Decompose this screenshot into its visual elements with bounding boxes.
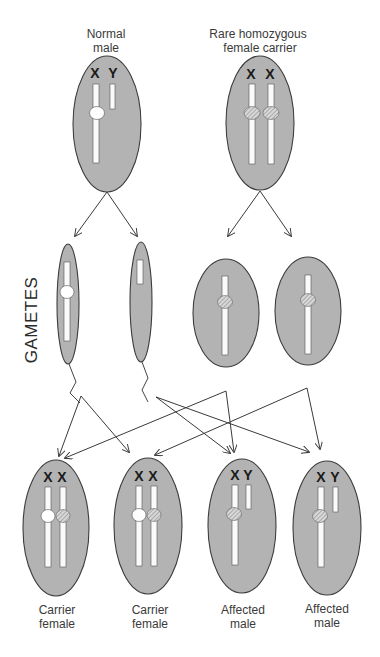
x-chromosome [151, 486, 157, 566]
offspring-affected-male-1: X Y Affected male [208, 459, 276, 631]
arrow-icon [107, 192, 137, 236]
cell-body [208, 459, 276, 593]
y-chromosome [333, 487, 338, 512]
offspring-label-line1: Carrier [132, 603, 169, 617]
offspring-carrier-female-2: X X Carrier female [114, 458, 182, 631]
chromosome-label-x: X [316, 469, 326, 485]
cell-body [226, 56, 294, 190]
x-chromosome [268, 84, 274, 164]
chromosome-label-x: X [230, 467, 240, 483]
cell-body [73, 56, 141, 192]
y-chromosome [110, 84, 115, 109]
x-chromosome [232, 485, 238, 565]
x-chromosome [305, 275, 311, 354]
x-chromosome [93, 84, 99, 163]
normal-allele-icon [132, 509, 146, 522]
y-chromosome [246, 485, 251, 509]
chromosome-label-x1: X [246, 66, 256, 82]
offspring-label-line2: male [230, 617, 256, 631]
y-chromosome [137, 260, 143, 284]
offspring-label-line2: female [39, 617, 75, 631]
egg-1 [193, 259, 259, 367]
arrow-icon [155, 388, 307, 455]
sperm-tail [69, 364, 80, 403]
mutant-allele-icon [227, 508, 242, 521]
arrow-icon [307, 388, 320, 449]
offspring-affected-male-2: X Y Affected male [293, 461, 361, 630]
chromosome-label-y: Y [330, 469, 340, 485]
mutant-allele-icon [313, 510, 328, 523]
arrow-icon [156, 397, 230, 453]
chromosome-label-y: Y [243, 467, 253, 483]
gametes-label: GAMETES [22, 277, 41, 364]
offspring-label-line1: Affected [305, 602, 349, 616]
mutant-allele-icon [147, 509, 161, 522]
parent-label-line2: male [93, 41, 119, 55]
x-linked-inheritance-diagram: Normal male X Y Rare homozygous female c… [0, 0, 380, 657]
parent-normal-male: Normal male X Y [73, 27, 141, 192]
x-chromosome [136, 486, 142, 566]
x-chromosome [222, 276, 228, 355]
normal-allele-icon [60, 286, 74, 299]
fertilization-arrows [59, 388, 320, 458]
mutant-allele-icon [56, 510, 70, 523]
arrow-icon [65, 391, 226, 458]
sperm-y [130, 242, 152, 402]
mutant-allele-icon [244, 107, 260, 120]
egg-2 [275, 257, 341, 365]
parent-label-line2: female carrier [223, 41, 296, 55]
chromosome-label-y: Y [108, 65, 118, 81]
parent-label-line1: Normal [87, 27, 126, 41]
arrow-icon [228, 191, 260, 236]
normal-allele-icon [41, 510, 55, 523]
x-chromosome [249, 84, 255, 164]
sperm-x [57, 244, 80, 403]
arrow-icon [260, 191, 291, 236]
parent-homozygous-female: Rare homozygous female carrier X X [209, 27, 306, 190]
normal-allele-icon [90, 107, 105, 120]
x-chromosome [60, 487, 66, 567]
x-chromosome [45, 487, 51, 567]
sperm-tail [142, 362, 148, 402]
chromosome-label-x1: X [43, 469, 53, 485]
chromosome-label-x2: X [57, 469, 67, 485]
offspring-label-line1: Carrier [39, 603, 76, 617]
offspring-label-line2: male [314, 616, 340, 630]
arrow-icon [75, 192, 107, 236]
parent-label-line1: Rare homozygous [209, 27, 306, 41]
offspring-label-line1: Affected [221, 603, 265, 617]
chromosome-label-x1: X [134, 468, 144, 484]
mutant-allele-icon [218, 296, 233, 309]
chromosome-label-x2: X [148, 468, 158, 484]
cell-body [293, 461, 361, 595]
meiosis-arrows [75, 191, 291, 236]
cell-body [23, 460, 89, 596]
x-chromosome [64, 262, 70, 341]
offspring-label-line2: female [132, 617, 168, 631]
mutant-allele-icon [301, 294, 316, 307]
chromosome-label-x: X [90, 65, 100, 81]
mutant-allele-icon [263, 107, 279, 120]
x-chromosome [318, 487, 324, 567]
chromosome-label-x2: X [265, 66, 275, 82]
offspring-carrier-female-1: X X Carrier female [23, 460, 89, 631]
arrow-icon [59, 396, 81, 456]
arrow-icon [81, 396, 129, 452]
